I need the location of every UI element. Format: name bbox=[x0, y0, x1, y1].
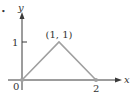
peak-label: (1, 1) bbox=[46, 29, 73, 40]
point-2-0 bbox=[94, 78, 98, 82]
triangle-graph: • y x 1 (1, 1) 0 2 bbox=[0, 0, 131, 102]
x-axis-label: x bbox=[124, 74, 130, 85]
y-axis-label: y bbox=[17, 2, 24, 13]
y-tick-label-1: 1 bbox=[12, 37, 18, 48]
origin-label: 0 bbox=[13, 81, 19, 92]
point-origin bbox=[20, 78, 24, 82]
bullet-marker: • bbox=[1, 7, 6, 16]
y-axis-arrow-icon bbox=[20, 12, 25, 19]
x-tick-label-2: 2 bbox=[93, 83, 99, 94]
chart-canvas: • y x 1 (1, 1) 0 2 bbox=[0, 0, 131, 102]
triangle-line bbox=[22, 42, 96, 80]
x-axis-arrow-icon bbox=[115, 78, 122, 83]
